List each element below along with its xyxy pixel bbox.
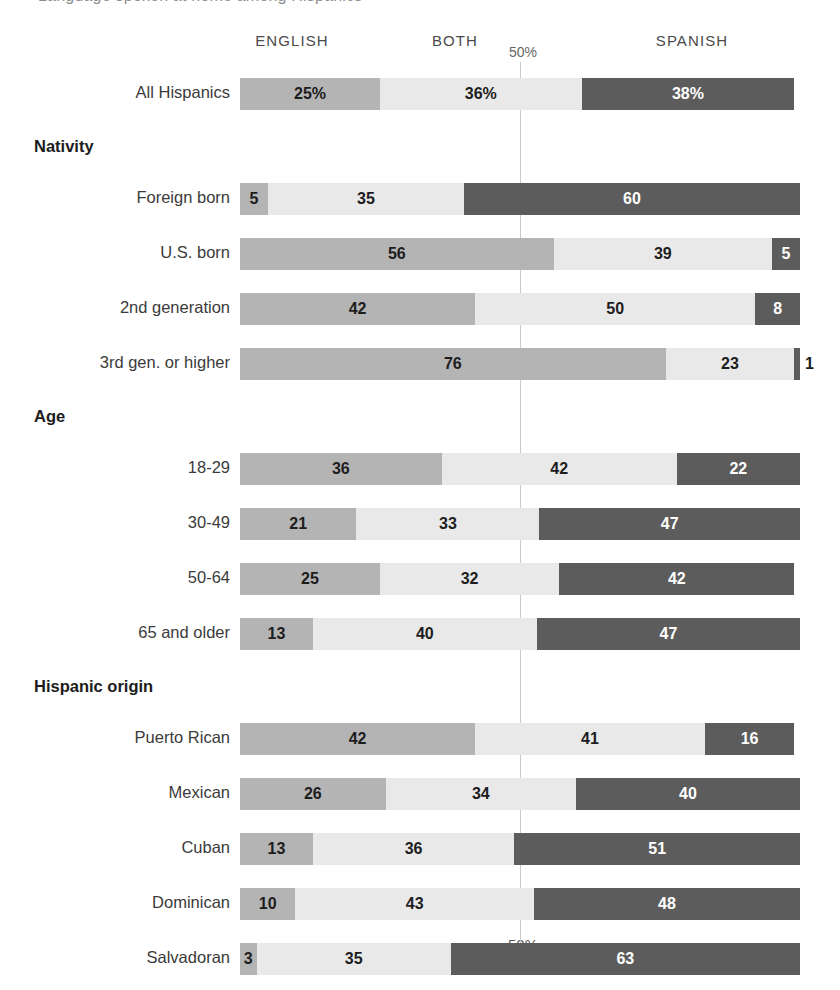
legend-label-both: BOTH [432, 32, 478, 49]
row-label: 50-64 [10, 568, 230, 587]
bar-segment-english: 26 [240, 778, 386, 810]
bar-segment-english: 36 [240, 453, 442, 485]
axis-guide-line [520, 380, 521, 453]
axis-guide-line [520, 110, 521, 183]
row-label: Dominican [10, 893, 230, 912]
row-label: U.S. born [10, 243, 230, 262]
bar-segment-value: 39 [654, 245, 672, 263]
bar-segment-both: 32 [380, 563, 559, 595]
bar-segment-english: 13 [240, 618, 313, 650]
axis-guide-line [520, 325, 521, 348]
group-header-label: Age [34, 407, 334, 426]
bar-segment-value: 23 [721, 355, 739, 373]
bar-segment-spanish: 1 [794, 348, 800, 380]
axis-guide-line [520, 810, 521, 833]
bar-segment-value: 21 [289, 515, 307, 533]
legend-label-spanish: SPANISH [656, 32, 728, 49]
axis-guide-line [520, 755, 521, 778]
bar-segment-value: 5 [250, 190, 259, 208]
bar-segment-value: 51 [648, 840, 666, 858]
bar-segment-value: 16 [741, 730, 759, 748]
bar-segment-value: 42 [550, 460, 568, 478]
axis-guide-line [520, 595, 521, 618]
bar-segment-value: 35 [345, 950, 363, 968]
bar-segment-value: 43 [406, 895, 424, 913]
row-label: 3rd gen. or higher [10, 353, 230, 372]
bar-segment-value: 34 [472, 785, 490, 803]
bar-segment-value: 42 [349, 730, 367, 748]
bar-segment-value: 13 [268, 625, 286, 643]
bar-segment-value: 48 [658, 895, 676, 913]
bar-segment-both: 35 [257, 943, 451, 975]
group-header-label: Hispanic origin [34, 677, 334, 696]
bar-segment-both: 39 [554, 238, 772, 270]
bar-segment-both: 41 [475, 723, 705, 755]
bar-segment-spanish: 8 [755, 293, 800, 325]
bar-segment-value: 76 [444, 355, 462, 373]
bar-segment-both: 42 [442, 453, 677, 485]
bar-segment-both: 43 [295, 888, 533, 920]
bar-segment-both: 23 [666, 348, 795, 380]
bar-segment-value: 47 [659, 625, 677, 643]
bar-segment-spanish: 60 [464, 183, 800, 215]
axis-guide-line [520, 865, 521, 888]
bar-segment-value: 42 [349, 300, 367, 318]
bar-segment-both: 36% [380, 78, 582, 110]
axis-guide-line [520, 270, 521, 293]
row-label: Foreign born [10, 188, 230, 207]
bar-segment-value: 10 [259, 895, 277, 913]
stacked-bar: 364222 [240, 453, 800, 485]
bar-segment-english: 21 [240, 508, 356, 540]
stacked-bar: 424116 [240, 723, 800, 755]
bar-segment-value: 56 [388, 245, 406, 263]
bar-segment-spanish: 40 [576, 778, 800, 810]
chart-row: Cuban133651 [0, 833, 840, 865]
stacked-bar: 25%36%38% [240, 78, 800, 110]
chart-row: 3rd gen. or higher76231 [0, 348, 840, 380]
bar-segment-spanish: 38% [582, 78, 795, 110]
chart-row: Salvadoran33563 [0, 943, 840, 975]
bar-segment-value: 5 [782, 245, 791, 263]
stacked-bar: 253242 [240, 563, 800, 595]
bar-segment-english: 42 [240, 723, 475, 755]
bar-segment-spanish: 47 [539, 508, 800, 540]
bar-segment-value: 22 [729, 460, 747, 478]
bar-segment-value: 50 [606, 300, 624, 318]
bar-segment-spanish: 22 [677, 453, 800, 485]
stacked-bar: 213347 [240, 508, 800, 540]
chart-row: Puerto Rican424116 [0, 723, 840, 755]
bar-segment-english: 25 [240, 563, 380, 595]
chart-row: 2nd generation42508 [0, 293, 840, 325]
chart-row: 65 and older134047 [0, 618, 840, 650]
stacked-bar-chart: Language spoken at home among Hispanics … [0, 0, 840, 990]
chart-row: 30-49213347 [0, 508, 840, 540]
bar-segment-value: 33 [439, 515, 457, 533]
bar-segment-value: 25 [301, 570, 319, 588]
bar-segment-both: 50 [475, 293, 755, 325]
stacked-bar: 263440 [240, 778, 800, 810]
row-label: 2nd generation [10, 298, 230, 317]
row-label: Salvadoran [10, 948, 230, 967]
axis-guide-line [520, 540, 521, 563]
stacked-bar: 42508 [240, 293, 800, 325]
bar-segment-value: 35 [357, 190, 375, 208]
chart-row: Dominican104348 [0, 888, 840, 920]
group-header-row: Hispanic origin [0, 677, 840, 703]
bar-segment-value: 42 [668, 570, 686, 588]
bar-segment-value: 60 [623, 190, 641, 208]
chart-row: Foreign born53560 [0, 183, 840, 215]
axis-tick-top-50: 50% [509, 44, 537, 60]
bar-segment-spanish: 5 [772, 238, 800, 270]
row-label: Puerto Rican [10, 728, 230, 747]
chart-row: 50-64253242 [0, 563, 840, 595]
row-label: All Hispanics [10, 83, 230, 102]
bar-segment-spanish: 16 [705, 723, 795, 755]
bar-segment-value: 38% [672, 85, 704, 103]
bar-segment-english: 5 [240, 183, 268, 215]
bar-segment-english: 76 [240, 348, 666, 380]
bar-segment-spanish: 63 [451, 943, 800, 975]
bar-segment-value: 3 [244, 950, 253, 968]
stacked-bar: 133651 [240, 833, 800, 865]
bar-segment-spanish: 47 [537, 618, 800, 650]
bar-segment-value: 8 [773, 300, 782, 318]
